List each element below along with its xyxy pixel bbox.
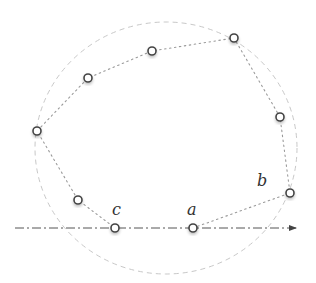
label-a: a: [187, 200, 197, 219]
label-c: c: [112, 200, 121, 219]
point-p6: [84, 74, 92, 82]
point-a: [189, 224, 197, 232]
dashed-circle: [35, 22, 297, 274]
point-b: [286, 189, 294, 197]
point-p3: [276, 113, 284, 121]
points-layer: [33, 34, 294, 232]
point-p5: [148, 47, 156, 55]
label-b: b: [257, 171, 267, 190]
point-p8: [74, 196, 82, 204]
labels-layer: cab: [112, 171, 267, 219]
point-c: [111, 224, 119, 232]
point-p7: [33, 127, 41, 135]
point-p4: [230, 34, 238, 42]
polygon-on-circle-diagram: cab: [0, 0, 316, 283]
